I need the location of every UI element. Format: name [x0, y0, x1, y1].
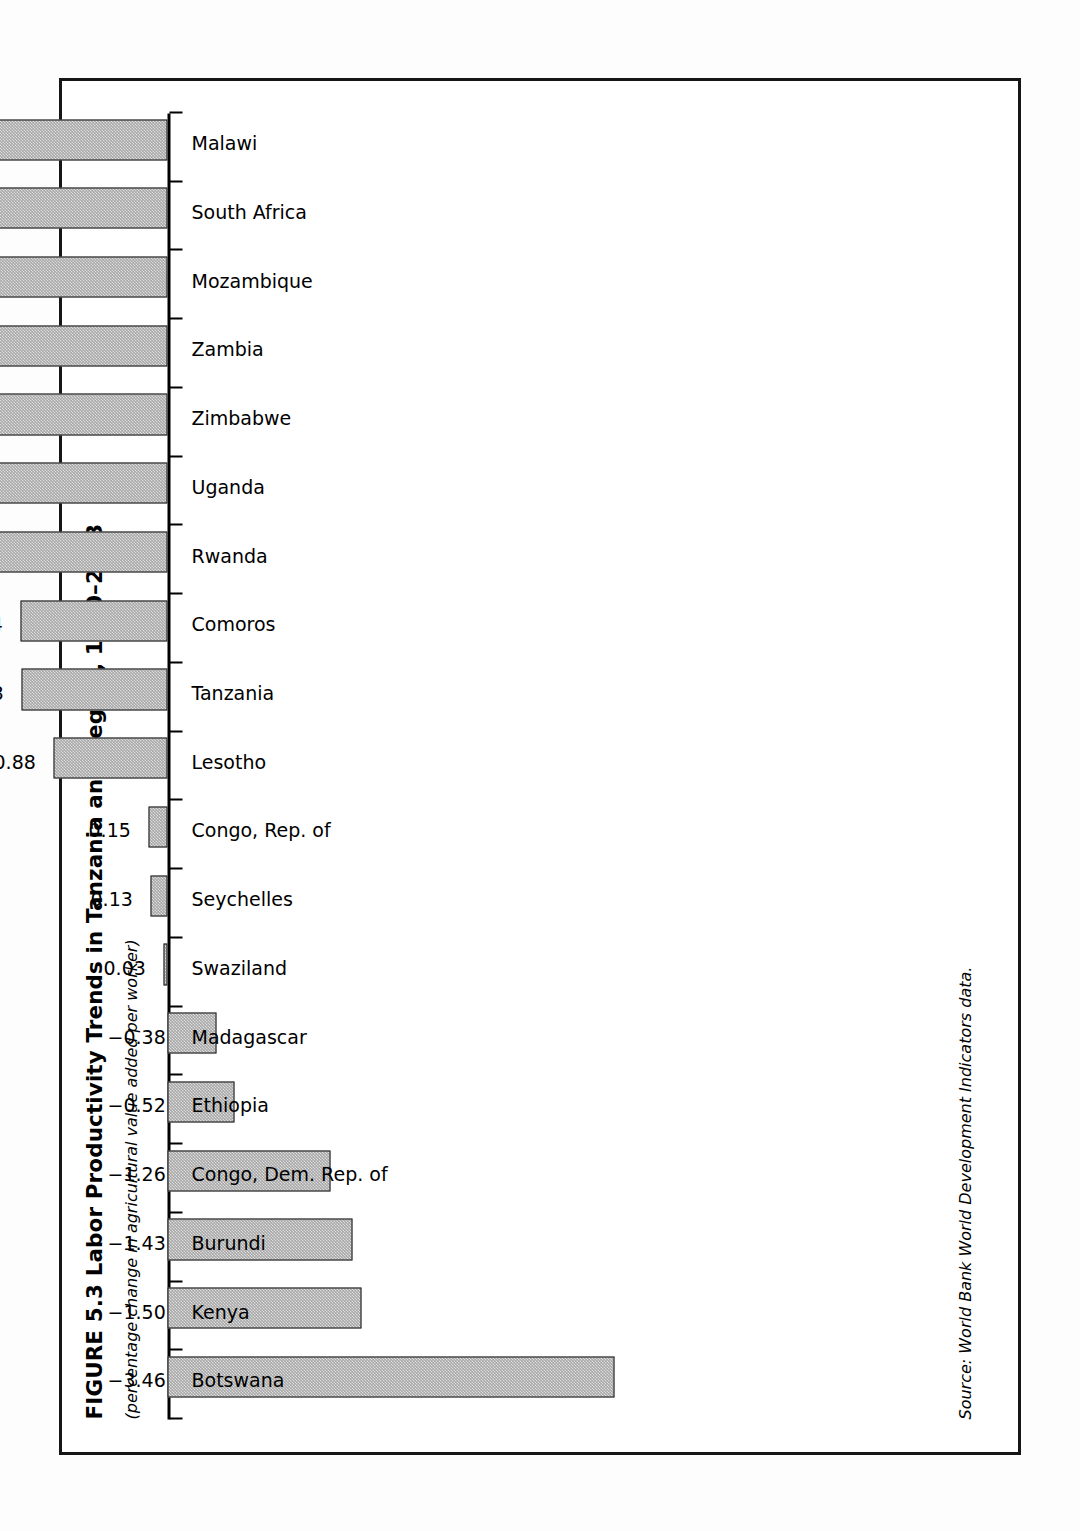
- axis-tick: [169, 936, 182, 938]
- axis-tick: [169, 1417, 182, 1419]
- bar-value-label: −3.46: [107, 1368, 165, 1390]
- axis-tick: [169, 523, 182, 525]
- figure-frame: FIGURE 5.3 Labor Productivity Trends in …: [59, 78, 1021, 1455]
- axis-tick: [169, 592, 182, 594]
- bar: [21, 668, 167, 709]
- axis-tick: [169, 1142, 182, 1144]
- category-label: Zambia: [191, 337, 263, 359]
- category-label: Kenya: [191, 1300, 249, 1322]
- bar: [53, 737, 167, 778]
- axis-tick: [169, 798, 182, 800]
- axis-tick: [169, 661, 182, 663]
- axis-tick: [169, 1348, 182, 1350]
- bar: [0, 187, 167, 228]
- category-label: Swaziland: [191, 956, 287, 978]
- category-label: Congo, Rep. of: [191, 819, 330, 841]
- axis-tick: [169, 1211, 182, 1213]
- axis-tick: [169, 1280, 182, 1282]
- category-label: Congo, Dem. Rep. of: [191, 1162, 387, 1184]
- axis-tick: [169, 455, 182, 457]
- bar: [150, 875, 167, 916]
- axis-tick: [169, 386, 182, 388]
- bar-value-label: −1.50: [107, 1300, 165, 1322]
- axis-tick: [169, 730, 182, 732]
- figure-page: FIGURE 5.3 Labor Productivity Trends in …: [0, 0, 1080, 1531]
- category-label: Lesotho: [191, 750, 266, 772]
- axis-tick: [169, 317, 182, 319]
- bar: [0, 462, 167, 503]
- category-label: Burundi: [191, 1231, 265, 1253]
- bar: [0, 119, 167, 160]
- bar: [0, 393, 167, 434]
- category-label: Rwanda: [191, 544, 267, 566]
- bar: [0, 256, 167, 297]
- bar: [0, 531, 167, 572]
- figure-title: FIGURE 5.3 Labor Productivity Trends in …: [81, 523, 106, 1419]
- bar: [148, 806, 167, 847]
- category-label: Madagascar: [191, 1025, 306, 1047]
- bar-value-label: 1.14: [0, 612, 2, 634]
- bar-value-label: 0.15: [88, 819, 130, 841]
- bar-value-label: −0.38: [107, 1025, 165, 1047]
- axis-tick: [169, 111, 182, 113]
- category-label: Malawi: [191, 131, 257, 153]
- axis-tick: [169, 1073, 182, 1075]
- bar-value-label: −1.43: [107, 1231, 165, 1253]
- axis-tick: [169, 248, 182, 250]
- category-label: Zimbabwe: [191, 406, 291, 428]
- category-label: Ethiopia: [191, 1093, 268, 1115]
- bar-value-label: 0.88: [0, 750, 36, 772]
- bar-value-label: −0.52: [107, 1093, 165, 1115]
- category-label: Mozambique: [191, 269, 312, 291]
- rotated-figure-canvas: FIGURE 5.3 Labor Productivity Trends in …: [59, 78, 1021, 1455]
- axis-tick: [169, 867, 182, 869]
- category-label: Comoros: [191, 612, 275, 634]
- bar-value-label: 0.13: [90, 887, 132, 909]
- axis-tick: [169, 1005, 182, 1007]
- bar: [163, 943, 167, 984]
- category-label: Seychelles: [191, 887, 292, 909]
- axis-tick: [169, 180, 182, 182]
- category-label: Botswana: [191, 1368, 284, 1390]
- bar-value-label: 0.03: [103, 956, 145, 978]
- category-label: Tanzania: [191, 681, 274, 703]
- bar: [0, 325, 167, 366]
- bar-chart-plot: −3.46−1.50−1.43−1.26−0.52−0.380.030.130.…: [167, 113, 929, 1419]
- bar-value-label: −1.26: [107, 1162, 165, 1184]
- bar: [20, 600, 167, 641]
- bar-value-label: 1.13: [0, 681, 3, 703]
- category-label: Uganda: [191, 475, 264, 497]
- figure-source: Source: World Bank World Development Ind…: [955, 966, 974, 1419]
- category-label: South Africa: [191, 200, 306, 222]
